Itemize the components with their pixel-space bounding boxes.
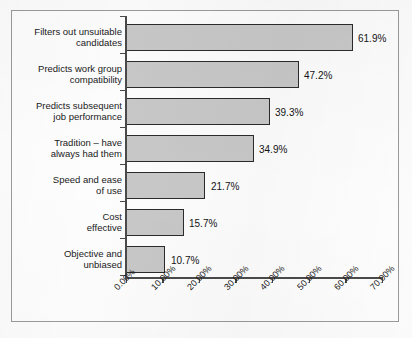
bar [126, 61, 299, 88]
y-axis-tick [120, 238, 125, 239]
x-axis-tick-label: 0.00% [112, 267, 137, 292]
bar [126, 24, 353, 51]
bar-value-label: 34.9% [259, 143, 287, 154]
y-axis-tick [120, 164, 125, 165]
y-axis-line [125, 16, 127, 278]
category-label: Objective and unbiased [14, 248, 122, 270]
bar-row: 47.2% [126, 61, 386, 88]
category-label: Filters out unsuitable candidates [14, 26, 122, 48]
bar-row: 61.9% [126, 24, 386, 51]
y-axis-tick [120, 201, 125, 202]
y-axis-tick [120, 16, 125, 17]
bar-row: 21.7% [126, 172, 386, 199]
category-label: Cost effective [14, 211, 122, 233]
bar-row: 34.9% [126, 135, 386, 162]
bar [126, 172, 205, 199]
bar [126, 209, 184, 236]
category-label: Speed and ease of use [14, 174, 122, 196]
category-label: Tradition – have always had them [14, 137, 122, 159]
chart-screenshot: Filters out unsuitable candidates Predic… [0, 0, 412, 338]
bar-row: 15.7% [126, 209, 386, 236]
bar-row: 39.3% [126, 98, 386, 125]
y-axis-tick [120, 90, 125, 91]
bar-value-label: 61.9% [358, 32, 386, 43]
bar-value-label: 47.2% [304, 69, 332, 80]
bar [126, 135, 254, 162]
category-label: Predicts work group compatibility [14, 63, 122, 85]
bar [126, 98, 270, 125]
bar-value-label: 21.7% [211, 180, 239, 191]
y-axis-tick [120, 127, 125, 128]
bar-chart-plot-area: Filters out unsuitable candidates Predic… [0, 0, 412, 338]
y-axis-tick [120, 53, 125, 54]
bar-value-label: 39.3% [275, 106, 303, 117]
category-label: Predicts subsequent job performance [14, 100, 122, 122]
bar-value-label: 10.7% [171, 254, 199, 265]
bar-value-label: 15.7% [189, 217, 217, 228]
